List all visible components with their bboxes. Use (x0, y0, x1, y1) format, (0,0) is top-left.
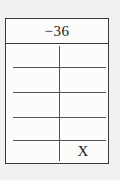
worksheet-table: −36 X (5, 18, 109, 164)
x-mark: X (59, 140, 107, 162)
row-line-1 (13, 67, 106, 69)
row-line-3 (13, 117, 106, 119)
row-line-2 (13, 92, 106, 94)
table-header-value: −36 (6, 19, 108, 44)
